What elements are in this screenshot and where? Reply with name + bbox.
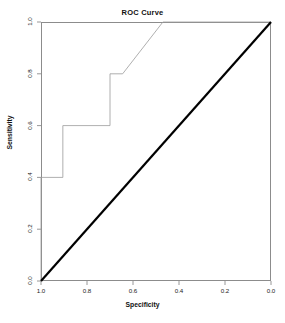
- x-axis-title: Specificity: [0, 301, 285, 308]
- x-tick-label: 0.8: [76, 287, 98, 294]
- x-tick-label: 1.0: [30, 287, 52, 294]
- y-tick-label: 0.8: [21, 70, 37, 77]
- y-tick-label: 0.6: [21, 122, 37, 129]
- y-tick-label: 0.4: [21, 173, 37, 180]
- y-tick-label: 0.0: [21, 277, 37, 284]
- page-title: ROC Curve: [0, 8, 285, 17]
- plot-frame: [41, 22, 271, 281]
- y-axis-title: Sensitivity: [6, 103, 13, 163]
- y-tick-label: 0.2: [21, 225, 37, 232]
- y-tick-label: 1.0: [21, 18, 37, 25]
- x-tick-label: 0.0: [260, 287, 282, 294]
- x-tick-label: 0.4: [168, 287, 190, 294]
- x-tick-label: 0.6: [122, 287, 144, 294]
- x-tick-label: 0.2: [214, 287, 236, 294]
- roc-curve-plot: ROC Curve 0.0 0.2 0.4 0.6 0.8 1.0 1.0 0.…: [0, 0, 285, 323]
